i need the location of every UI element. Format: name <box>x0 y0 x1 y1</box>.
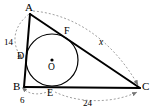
vertex-label-b: B <box>13 81 20 92</box>
triangle-sides <box>24 14 140 88</box>
incenter-label: O <box>48 63 55 73</box>
tangent-label-f: F <box>64 26 70 36</box>
vertex-label-a: A <box>25 2 33 13</box>
vertex-label-c: C <box>142 81 149 92</box>
geometry-figure: A B C D E F O 14 6 24 x <box>0 0 156 112</box>
measure-label-ad: 14 <box>4 38 13 47</box>
side-ac <box>30 14 140 88</box>
side-bc <box>24 87 140 88</box>
tangent-label-d: D <box>17 51 24 61</box>
tangent-label-e: E <box>47 88 53 98</box>
measure-label-fc: x <box>99 38 103 48</box>
measure-arc-fc <box>33 11 138 85</box>
measure-label-be: 6 <box>20 96 25 105</box>
measure-arc-ec <box>55 92 137 101</box>
measure-label-ec: 24 <box>83 99 92 108</box>
side-ab <box>24 14 30 87</box>
